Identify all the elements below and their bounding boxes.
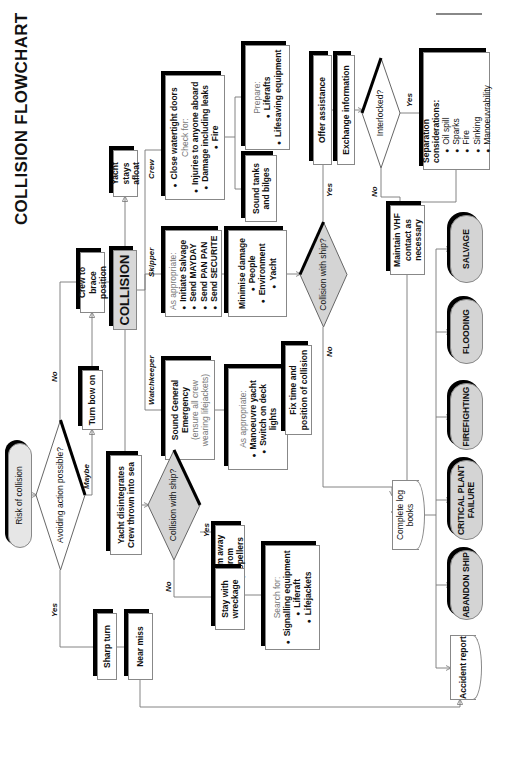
page-title: COLLISION FLOWCHART (12, 12, 32, 225)
edge-label-yes: Yes (50, 603, 59, 617)
turn-bow-on: Turn bow on (82, 370, 103, 430)
separation-item: Oil spill (441, 85, 451, 153)
offer-assistance: Offer assistance (313, 55, 332, 165)
collision-node: COLLISION (113, 250, 137, 330)
edge-label-watchkeeper: Watchkeeper (147, 355, 156, 405)
edge-label-no: No (164, 581, 173, 592)
watchkeeper-as-appropriate: As appropriate: Manoeuvre yacht Switch o… (228, 368, 288, 470)
sound-tanks-and-bilges: Sound tanks and bilges (245, 155, 277, 222)
separation-item: Fire (461, 85, 471, 153)
outcome-firefighting: FIREFIGHTING (450, 383, 483, 450)
sharp-turn: Sharp turn (97, 613, 117, 680)
minimise-item: Yacht (268, 243, 278, 303)
edge-label-skipper: Skipper (147, 248, 156, 277)
search-item: Signalling equipment (282, 550, 292, 644)
separation-item: Manoeuvrability (482, 85, 492, 153)
decision-interlocked: Interlocked? (362, 58, 400, 168)
separation-item: Sparks (451, 85, 461, 153)
prepare-item: Lifesaving equipment (273, 50, 283, 146)
corner-rule (436, 13, 482, 15)
watch-approp-heading: As appropriate: (238, 390, 248, 448)
skipper-item: Initiate Salvage (178, 236, 188, 310)
outcome-abandon-ship: ABANDON SHIP (450, 550, 483, 620)
minimise-heading: Minimise damage (237, 238, 247, 309)
near-miss: Near miss (128, 613, 153, 680)
edge-label-no: No (325, 346, 334, 357)
decision-collision-with-ship-right: Collision with ship? (300, 222, 347, 327)
sound-general-emergency: Sound General Emergency (170, 364, 190, 456)
crew-item: Injuries to anyone aboard (190, 82, 200, 194)
outcome-salvage: SALVAGE (450, 215, 483, 283)
maintain-vhf-contact: Maintain VHF contact as necessary (390, 205, 425, 275)
yacht-disintegrates: Yacht disintegrates Crew thrown into sea (110, 455, 142, 555)
prepare-item: Liferafts (262, 50, 272, 146)
edge-label-no: No (370, 186, 379, 197)
separation-item: Sinking (472, 85, 482, 153)
crew-actions: Close watertight doors Check for: Injuri… (165, 75, 225, 200)
edge-label-yes: Yes (405, 93, 414, 107)
watchkeeper-sound-emergency: Sound General Emergency (ensure all crew… (165, 360, 215, 460)
minimise-item: People (247, 243, 257, 303)
prepare-heading: Prepare: (252, 81, 262, 114)
accident-report: Accident report (450, 635, 476, 700)
skipper-item: Send MAYDAY (188, 236, 198, 310)
watch-item: Manoeuvre yacht (248, 372, 258, 466)
decision-collision-with-ship-left: Collision with ship? (148, 450, 200, 560)
crew-item: Close watertight doors (169, 87, 179, 187)
skipper-actions: As appropriate: Initiate Salvage Send MA… (165, 230, 222, 317)
flowchart-canvas: COLLISION FLOWCHART Risk of collision Av… (0, 0, 519, 757)
separation-heading: Separation considerations: (421, 56, 441, 163)
crew-item: Fire (210, 82, 220, 194)
edge-label-crew: Crew (147, 159, 156, 179)
separation-considerations: Separation considerations: Oil spill Spa… (423, 52, 490, 170)
fix-time-and-position: Fix time and position of collision (285, 345, 312, 435)
search-item: Liferaft (292, 550, 302, 644)
search-for: Search for: Signalling equipment Liferaf… (265, 545, 320, 650)
edge-label-yes: Yes (202, 523, 211, 537)
skipper-item: Send SECURITE (209, 236, 219, 310)
prepare-box: Prepare: Liferafts Lifesaving equipment (245, 45, 290, 150)
complete-log-books: Complete log books (392, 480, 419, 550)
exchange-information: Exchange information (337, 55, 355, 165)
lifejacket-note: (ensure all crew wearing lifejackets) (190, 364, 210, 456)
outcome-flooding: FLOODING (450, 299, 483, 364)
crew-item: Damage including leaks (200, 82, 210, 194)
minimise-damage: Minimise damage People Environment Yacht (228, 230, 287, 317)
watch-item: Switch on deck lights (258, 372, 278, 466)
search-heading: Search for: (272, 577, 282, 619)
yacht-stays-afloat: Yacht stays afloat (113, 150, 138, 197)
decision-avoiding-action: Avoiding action possible? (36, 420, 85, 570)
search-item: Lifejackets (303, 550, 313, 644)
edge-label-yes: Yes (325, 183, 334, 197)
start-risk-of-collision: Risk of collision (8, 443, 32, 548)
skipper-heading: As appropriate: (168, 252, 178, 310)
edge-label-maybe: Maybe (82, 464, 91, 489)
skipper-item: Send PAN PAN (199, 236, 209, 310)
outcome-critical-plant-failure: CRITICAL PLANT FAILURE (450, 460, 483, 540)
stay-with-wreckage: Stay with wreckage (215, 568, 245, 630)
minimise-item: Environment (257, 243, 267, 303)
check-for-label: Check for: (180, 118, 190, 157)
edge-label-no: No (50, 371, 59, 382)
crew-to-brace-position: Crew to brace position (80, 252, 105, 313)
